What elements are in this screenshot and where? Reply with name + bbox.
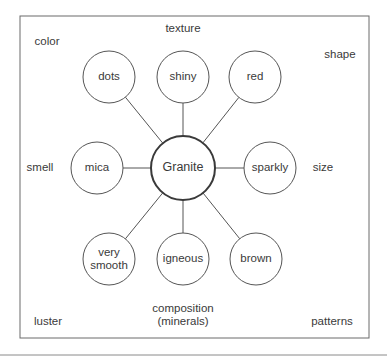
- node-label-line: mica: [85, 161, 110, 173]
- node-label: shiny: [170, 70, 197, 82]
- node-label: red: [247, 70, 264, 82]
- node-dots: dots: [83, 51, 135, 103]
- center-node: Granite: [151, 136, 215, 200]
- node-label-line: brown: [240, 252, 271, 264]
- node-very-smooth: verysmooth: [83, 233, 135, 285]
- category-luster: luster: [34, 315, 62, 327]
- category-size: size: [313, 161, 333, 173]
- node-label: sparkly: [252, 161, 289, 173]
- category-size-line: size: [313, 161, 333, 173]
- category-color: color: [35, 35, 60, 47]
- category-composition: composition(minerals): [152, 302, 213, 327]
- node-shiny: shiny: [157, 51, 209, 103]
- category-smell: smell: [27, 161, 54, 173]
- node-label-line: smooth: [90, 259, 128, 271]
- node-label: brown: [240, 252, 271, 264]
- category-luster-line: luster: [34, 315, 62, 327]
- category-shape-line: shape: [324, 48, 355, 60]
- node-brown: brown: [230, 233, 282, 285]
- category-patterns-line: patterns: [311, 315, 353, 327]
- connector-red: [203, 97, 239, 143]
- category-composition-line: (minerals): [157, 315, 208, 327]
- node-label-line: red: [247, 70, 264, 82]
- category-color-line: color: [35, 35, 60, 47]
- node-label-line: igneous: [163, 252, 204, 264]
- connector-brown: [203, 193, 240, 239]
- node-sparkly: sparkly: [244, 142, 296, 194]
- node-label: igneous: [163, 252, 204, 264]
- node-red: red: [229, 51, 281, 103]
- node-label-line: sparkly: [252, 161, 289, 173]
- category-smell-line: smell: [27, 161, 54, 173]
- node-mica: mica: [71, 142, 123, 194]
- node-label-line: shiny: [170, 70, 197, 82]
- category-patterns: patterns: [311, 315, 353, 327]
- concept-web-diagram: dotsshinyredmicasparklyverysmoothigneous…: [0, 0, 387, 361]
- node-igneous: igneous: [157, 233, 209, 285]
- node-label: mica: [85, 161, 110, 173]
- connector-dots: [125, 97, 162, 143]
- category-composition-line: composition: [152, 302, 213, 314]
- node-label-line: very: [98, 246, 120, 258]
- node-label: dots: [98, 70, 120, 82]
- center-label: Granite: [163, 160, 204, 174]
- category-texture-line: texture: [165, 22, 200, 34]
- connector-very-smooth: [125, 193, 162, 239]
- category-shape: shape: [324, 48, 355, 60]
- category-texture: texture: [165, 22, 200, 34]
- node-label-line: dots: [98, 70, 120, 82]
